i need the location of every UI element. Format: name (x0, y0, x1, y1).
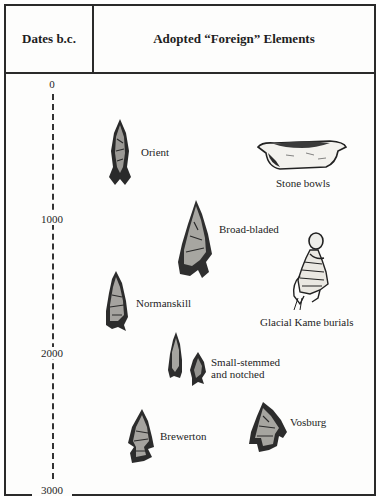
projectile-point-icon (126, 409, 156, 463)
projectile-point-icon (166, 332, 208, 386)
vosburg-point (247, 402, 289, 452)
elements-column-header: Adopted “Foreign” Elements (94, 6, 374, 72)
skeleton-burial-icon (290, 232, 334, 312)
glacial-kame-burial (290, 232, 334, 312)
vosburg-label: Vosburg (290, 416, 326, 428)
table-header: Dates b.c. Adopted “Foreign” Elements (6, 6, 374, 74)
projectile-point-icon (247, 402, 289, 452)
orient-label: Orient (141, 146, 169, 158)
brewerton-point (126, 409, 156, 463)
tick-0: 0 (32, 78, 72, 90)
chronology-table: Dates b.c. Adopted “Foreign” Elements 0 … (4, 4, 376, 496)
tick-2000: 2000 (32, 347, 72, 359)
broad-bladed-label: Broad-bladed (219, 223, 279, 235)
projectile-point-icon (107, 119, 133, 185)
tick-1000: 1000 (32, 213, 72, 225)
stone-bowl (256, 137, 348, 171)
glacial-kame-label: Glacial Kame burials (260, 316, 353, 328)
brewerton-label: Brewerton (160, 430, 206, 442)
dates-column-header: Dates b.c. (6, 6, 94, 72)
projectile-point-icon (176, 200, 214, 280)
date-axis-line (52, 94, 54, 479)
tick-3000: 3000 (32, 484, 72, 496)
projectile-point-icon (104, 271, 130, 331)
normanskill-point (104, 271, 130, 331)
stone-bowls-label: Stone bowls (276, 177, 330, 189)
normanskill-label: Normanskill (136, 297, 191, 309)
broad-bladed-point (176, 200, 214, 280)
small-stemmed-label-line1: Small-stemmed (211, 356, 280, 368)
small-stemmed-points (166, 332, 208, 386)
small-stemmed-label-line2: and notched (211, 368, 280, 380)
small-stemmed-label: Small-stemmed and notched (211, 356, 280, 380)
orient-point (107, 119, 133, 185)
stone-bowl-icon (256, 137, 348, 171)
